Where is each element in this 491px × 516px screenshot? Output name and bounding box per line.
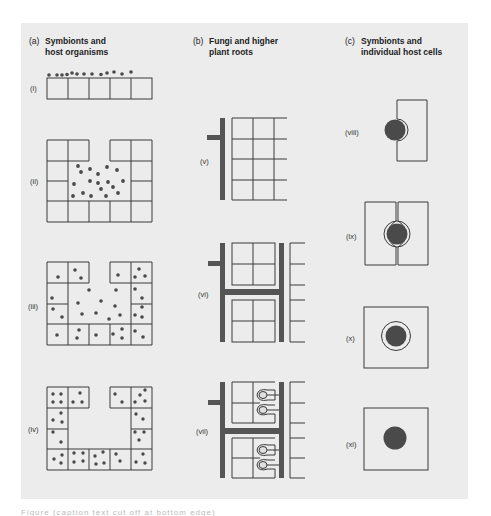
hypha-icon	[220, 118, 225, 200]
diagram-i	[47, 70, 152, 99]
diagram-canvas	[0, 0, 491, 516]
diagram-x	[364, 307, 428, 368]
symbiont-icon	[385, 120, 406, 141]
diagram-iv	[47, 387, 152, 470]
diagram-ii	[47, 140, 152, 222]
figure-caption: Figure (caption text cut off at bottom e…	[21, 508, 468, 516]
diagram-vii	[208, 382, 305, 478]
symbiont-dots-iv	[51, 388, 146, 465]
symbiont-dots-ii	[71, 164, 125, 198]
diagram-xi	[364, 408, 428, 470]
symbiont-dots-i	[47, 70, 133, 77]
diagram-v	[207, 118, 287, 200]
diagram-iii	[47, 262, 152, 345]
diagram-vi	[208, 243, 305, 342]
diagram-viii	[385, 100, 428, 161]
diagram-ix	[365, 202, 428, 265]
